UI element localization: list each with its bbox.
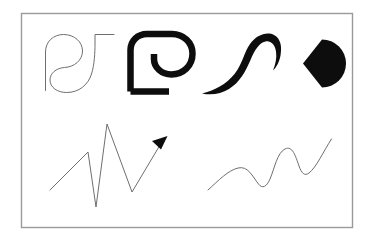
outer-frame — [22, 14, 353, 228]
figure-container — [0, 0, 375, 245]
figure-canvas — [0, 0, 375, 245]
